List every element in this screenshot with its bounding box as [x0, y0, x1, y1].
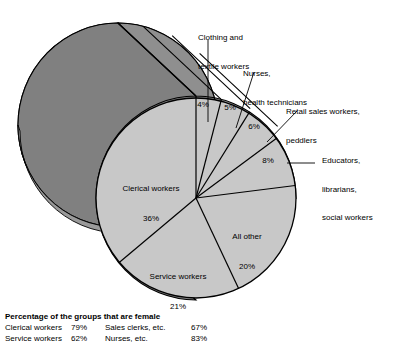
footnote-table: Clerical workers 79% Sales clerks, etc. … — [5, 322, 221, 344]
table-row: Clerical workers 79% Sales clerks, etc. … — [5, 322, 221, 333]
slice-value-educators: 8% — [257, 156, 279, 166]
footnote-block: Percentage of the groups that are female… — [5, 311, 245, 344]
table-row: Service workers 62% Nurses, etc. 83% — [5, 333, 221, 344]
callout-label-educators-line2: librarians, — [322, 185, 398, 195]
slice-value-clothing: 4% — [192, 100, 214, 110]
callout-label-educators-line1: Educators, — [322, 156, 398, 166]
footnote-row1-pct2: 83% — [191, 333, 221, 344]
footnote-row0-pct2: 67% — [191, 322, 221, 333]
callout-label-clothing-line1: Clothing and — [198, 33, 308, 43]
callout-label-educators: Educators, librarians, social workers — [322, 137, 398, 242]
footnote-row1-group2: Nurses, etc. — [105, 333, 191, 344]
slice-value-nurses: 5% — [219, 103, 241, 113]
callout-label-educators-line3: social workers — [322, 213, 398, 223]
footnote-row0-pct: 79% — [71, 322, 105, 333]
slice-label-allother: All other 20% — [208, 212, 286, 292]
footnote-row1-pct: 62% — [71, 333, 105, 344]
footnote-title: Percentage of the groups that are female — [5, 311, 245, 322]
slice-label-clerical: Clerical workers 36% — [96, 164, 206, 244]
callout-label-retail-line1: Retail sales workers, — [286, 107, 398, 117]
slice-label-clerical-name: Clerical workers — [96, 184, 206, 194]
slice-label-allother-name: All other — [208, 232, 286, 242]
footnote-row1-group: Service workers — [5, 333, 71, 344]
pie-chart-figure: Clerical workers 36% Service workers 21%… — [0, 0, 398, 347]
slice-label-clerical-value: 36% — [96, 214, 206, 224]
footnote-row0-group: Clerical workers — [5, 322, 71, 333]
footnote-row0-group2: Sales clerks, etc. — [105, 322, 191, 333]
slice-label-allother-value: 20% — [208, 262, 286, 272]
callout-label-nurses-line1: Nurses, — [243, 69, 363, 79]
